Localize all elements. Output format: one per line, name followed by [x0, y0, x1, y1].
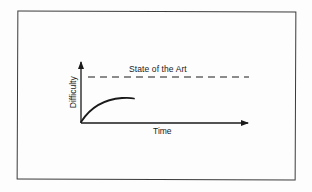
diagram-graphic [0, 0, 312, 192]
y-axis-label: Difficulty [69, 62, 78, 122]
state-of-the-art-label: State of the Art [129, 65, 187, 74]
x-axis-label: Time [153, 127, 172, 136]
difficulty-curve [81, 98, 134, 122]
diagram-canvas: State of the Art Time Difficulty [0, 0, 312, 192]
